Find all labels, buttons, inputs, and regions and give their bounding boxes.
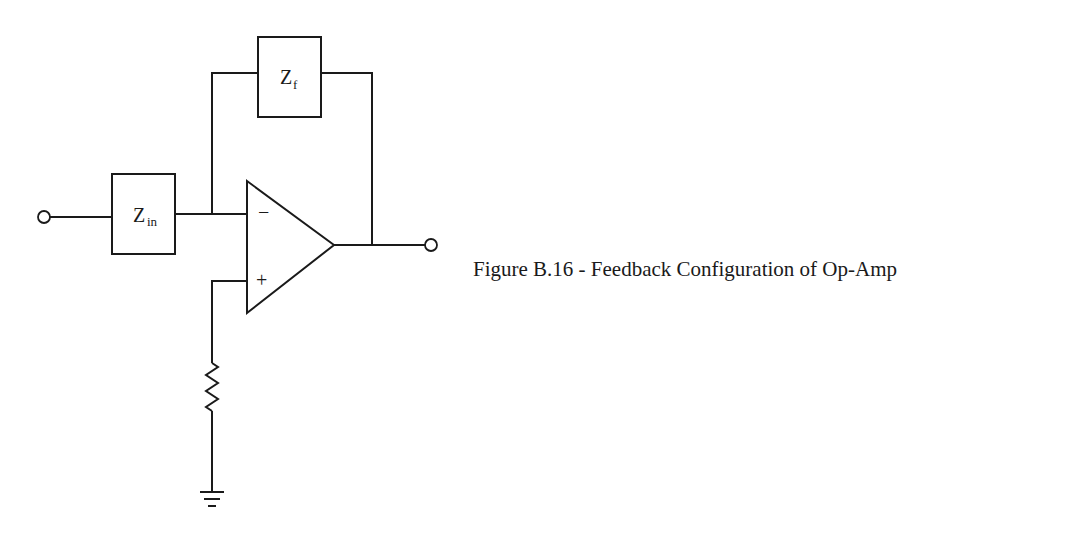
input-impedance-symbol: Z <box>133 204 145 226</box>
output-terminal <box>425 239 437 251</box>
input-terminal <box>38 211 50 223</box>
noninverting-input-sign: + <box>256 269 267 291</box>
feedback-impedance-subscript: f <box>293 77 298 92</box>
feedback-impedance-symbol: Z <box>280 66 292 88</box>
feedback-wire-right <box>321 73 372 245</box>
figure-caption: Figure B.16 - Feedback Configuration of … <box>473 257 897 282</box>
inverting-input-sign: − <box>258 201 269 223</box>
noninverting-input-wire <box>212 281 247 363</box>
ground-icon <box>200 492 224 506</box>
resistor-icon <box>206 363 218 411</box>
input-impedance-subscript: in <box>147 214 158 229</box>
